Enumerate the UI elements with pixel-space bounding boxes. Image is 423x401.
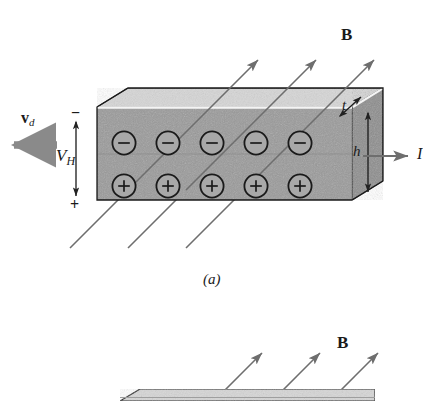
drift-velocity-symbol: v	[21, 109, 29, 126]
charge-negative	[156, 131, 179, 154]
hall-voltage-symbol: V	[56, 146, 66, 165]
thickness-label: t	[342, 98, 346, 113]
panel-caption-a: (a)	[203, 272, 221, 287]
charge-positive	[244, 174, 267, 197]
charge-positive	[156, 174, 179, 197]
slab-b-top-face	[120, 389, 375, 401]
charge-positive	[112, 174, 135, 197]
slab-top-face	[97, 88, 383, 107]
figure-canvas	[0, 0, 423, 401]
charge-negative	[288, 131, 311, 154]
drift-velocity-subscript: d	[29, 116, 35, 128]
negative-terminal-sign: −	[71, 105, 80, 121]
charge-positive	[288, 174, 311, 197]
drift-velocity-label: vd	[21, 110, 35, 128]
charge-positive	[200, 174, 223, 197]
magnetic-field-label-a: B	[341, 26, 352, 43]
height-label: h	[353, 144, 361, 159]
positive-terminal-sign: +	[70, 197, 79, 213]
charge-negative	[200, 131, 223, 154]
hall-effect-figure: B vd VH − + t h I (a) B	[0, 0, 423, 401]
charge-negative	[244, 131, 267, 154]
hall-voltage-subscript: H	[66, 154, 75, 168]
magnetic-field-label-b: B	[337, 334, 348, 351]
current-label: I	[417, 146, 422, 162]
hall-voltage-label: VH	[56, 147, 75, 167]
charge-negative	[112, 131, 135, 154]
